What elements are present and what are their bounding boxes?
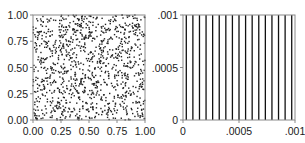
scatter-point	[135, 32, 136, 33]
scatter-point	[65, 116, 66, 117]
scatter-point	[139, 54, 140, 55]
scatter-point	[71, 83, 72, 84]
scatter-point	[67, 54, 68, 55]
scatter-point	[122, 17, 123, 18]
scatter-point	[39, 61, 40, 62]
scatter-point	[40, 59, 41, 60]
scatter-point	[127, 50, 128, 51]
scatter-point	[46, 92, 47, 93]
scatter-point	[89, 97, 90, 98]
scatter-point	[89, 65, 90, 66]
scatter-point	[82, 73, 83, 74]
scatter-point	[98, 114, 99, 115]
scatter-point	[64, 117, 65, 118]
scatter-point	[111, 83, 112, 84]
scatter-point	[64, 71, 65, 72]
scatter-point	[52, 100, 53, 101]
scatter-point	[101, 67, 102, 68]
scatter-point	[130, 31, 131, 32]
scatter-point	[62, 115, 63, 116]
scatter-point	[112, 67, 113, 68]
scatter-point	[132, 23, 133, 24]
scatter-point	[75, 80, 76, 81]
scatter-point	[62, 82, 63, 83]
scatter-point	[61, 67, 62, 68]
scatter-point	[140, 69, 141, 70]
scatter-point	[83, 50, 84, 51]
scatter-point	[122, 27, 123, 28]
scatter-point	[86, 58, 87, 59]
scatter-point	[76, 78, 77, 79]
scatter-point	[90, 32, 91, 33]
scatter-point	[97, 61, 98, 62]
scatter-point	[60, 117, 61, 118]
scatter-point	[131, 47, 132, 48]
scatter-point	[50, 56, 51, 57]
scatter-point	[114, 77, 115, 78]
scatter-point	[88, 77, 89, 78]
scatter-point	[125, 50, 126, 51]
scatter-point	[55, 64, 56, 65]
scatter-point	[142, 84, 143, 85]
scatter-point	[118, 49, 119, 50]
scatter-point	[62, 93, 63, 94]
scatter-point	[43, 21, 44, 22]
scatter-point	[59, 45, 60, 46]
scatter-point	[114, 86, 115, 87]
scatter-point	[118, 53, 119, 54]
scatter-point	[43, 80, 44, 81]
lines-ytick-label: .001	[158, 9, 179, 21]
scatter-point	[121, 77, 122, 78]
scatter-point	[82, 78, 83, 79]
scatter-point	[111, 68, 112, 69]
scatter-point	[42, 81, 43, 82]
scatter-point	[60, 65, 61, 66]
scatter-point	[60, 71, 61, 72]
scatter-point	[60, 107, 61, 108]
scatter-point	[121, 44, 122, 45]
scatter-point	[128, 41, 129, 42]
scatter-point	[82, 27, 83, 28]
scatter-point	[65, 34, 66, 35]
scatter-point	[60, 32, 61, 33]
scatter-point	[140, 79, 141, 80]
scatter-point	[117, 109, 118, 110]
scatter-xtick-label: 0.25	[51, 125, 72, 137]
scatter-point	[66, 85, 67, 86]
scatter-point	[81, 46, 82, 47]
scatter-point	[107, 117, 108, 118]
scatter-point	[87, 25, 88, 26]
scatter-point	[37, 20, 38, 21]
scatter-point	[121, 98, 122, 99]
scatter-point	[94, 83, 95, 84]
scatter-point	[78, 20, 79, 21]
scatter-point	[62, 45, 63, 46]
scatter-point	[130, 50, 131, 51]
scatter-point	[123, 87, 124, 88]
scatter-point	[62, 77, 63, 78]
scatter-point	[50, 18, 51, 19]
scatter-point	[124, 73, 125, 74]
scatter-point	[90, 22, 91, 23]
scatter-point	[34, 114, 35, 115]
scatter-point	[43, 84, 44, 85]
scatter-point	[74, 75, 75, 76]
scatter-point	[68, 25, 69, 26]
scatter-point	[110, 29, 111, 30]
scatter-ytick-label: 1.00	[8, 9, 29, 21]
scatter-point	[136, 24, 137, 25]
scatter-point	[92, 108, 93, 109]
scatter-point	[118, 31, 119, 32]
scatter-point	[125, 78, 126, 79]
scatter-point	[137, 115, 138, 116]
scatter-point	[43, 88, 44, 89]
scatter-point	[85, 87, 86, 88]
scatter-point	[49, 78, 50, 79]
scatter-point	[56, 47, 57, 48]
scatter-point	[60, 42, 61, 43]
scatter-point	[108, 75, 109, 76]
scatter-point	[114, 76, 115, 77]
scatter-point	[38, 96, 39, 97]
scatter-point	[108, 63, 109, 64]
scatter-point	[49, 76, 50, 77]
